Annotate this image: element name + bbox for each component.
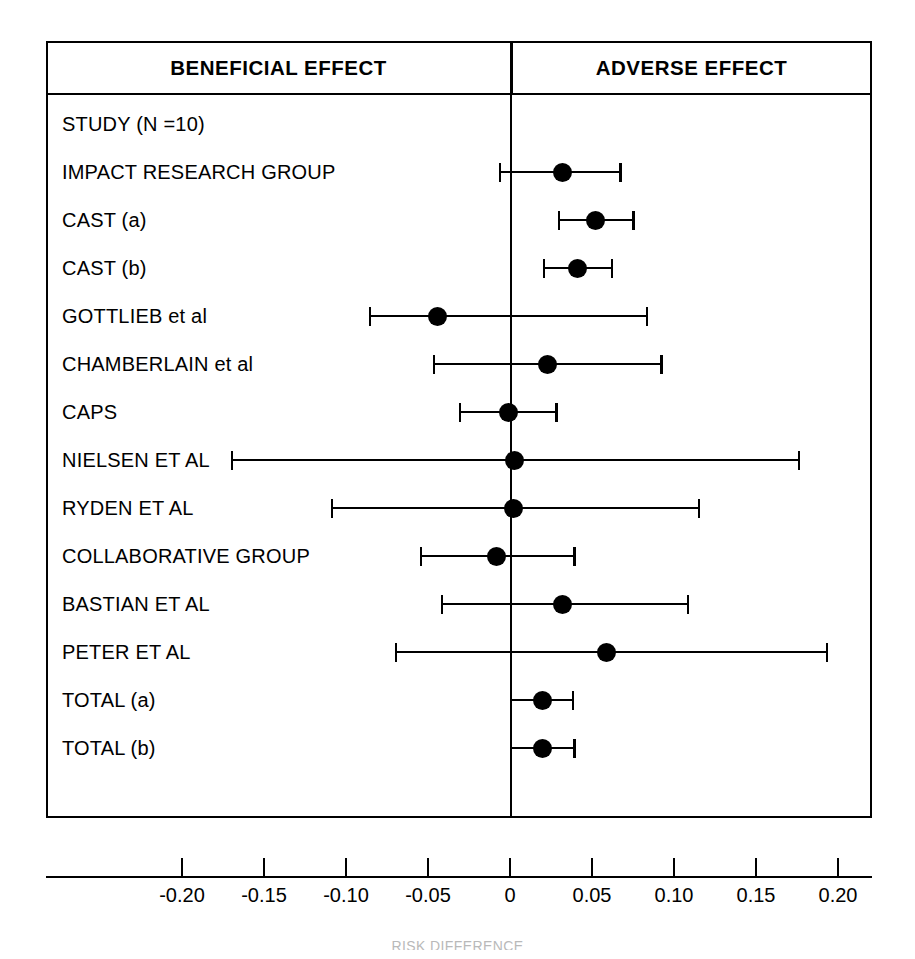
study-row: PETER ET AL	[46, 628, 872, 676]
x-axis-tick-label: 0.20	[819, 884, 858, 907]
confidence-interval-line	[369, 315, 648, 317]
study-row: TOTAL (b)	[46, 724, 872, 772]
x-axis-tick-label: 0.10	[655, 884, 694, 907]
ci-cap-upper	[632, 211, 634, 230]
x-axis-tick	[755, 858, 757, 876]
ci-cap-upper	[798, 451, 800, 470]
point-estimate-marker	[504, 499, 523, 518]
point-estimate-marker	[553, 595, 572, 614]
ci-cap-upper	[573, 739, 575, 758]
point-estimate-marker	[533, 739, 552, 758]
ci-cap-upper	[687, 595, 689, 614]
x-axis-tick-label: -0.05	[405, 884, 451, 907]
header-beneficial-effect: BENEFICIAL EFFECT	[46, 41, 511, 95]
ci-cap-upper	[826, 643, 828, 662]
study-row: BASTIAN ET AL	[46, 580, 872, 628]
study-row-label: TOTAL (b)	[62, 724, 156, 772]
x-axis-line	[46, 876, 872, 878]
ci-cap-lower	[543, 259, 545, 278]
study-row-label: GOTTLIEB et al	[62, 292, 207, 340]
ci-cap-lower	[499, 163, 501, 182]
ci-cap-lower	[441, 595, 443, 614]
ci-cap-upper	[660, 355, 662, 374]
ci-cap-upper	[572, 691, 574, 710]
header-band: BENEFICIAL EFFECT ADVERSE EFFECT	[46, 41, 872, 95]
study-row-label: CAST (a)	[62, 196, 147, 244]
ci-cap-upper	[573, 547, 575, 566]
point-estimate-marker	[428, 307, 447, 326]
point-estimate-marker	[505, 451, 524, 470]
ci-cap-lower	[459, 403, 461, 422]
study-row: IMPACT RESEARCH GROUP	[46, 148, 872, 196]
x-axis-tick-label: 0.15	[737, 884, 776, 907]
x-axis-tick-label: -0.20	[159, 884, 205, 907]
study-row-label: PETER ET AL	[62, 628, 191, 676]
x-axis-tick	[673, 858, 675, 876]
study-row-label: CHAMBERLAIN et al	[62, 340, 253, 388]
x-axis-tick	[181, 858, 183, 876]
ci-cap-lower	[395, 643, 397, 662]
study-row: TOTAL (a)	[46, 676, 872, 724]
x-axis-tick-label: 0.05	[573, 884, 612, 907]
point-estimate-marker	[533, 691, 552, 710]
x-axis-tick	[345, 858, 347, 876]
ci-cap-upper	[611, 259, 613, 278]
point-estimate-marker	[538, 355, 557, 374]
ci-cap-lower	[231, 451, 233, 470]
x-axis-tick	[509, 858, 511, 876]
point-estimate-marker	[568, 259, 587, 278]
study-row: GOTTLIEB et al	[46, 292, 872, 340]
study-row: STUDY (N =10)	[46, 100, 872, 148]
study-row: NIELSEN ET AL	[46, 436, 872, 484]
study-row-label: CAPS	[62, 388, 117, 436]
study-row-label: IMPACT RESEARCH GROUP	[62, 148, 336, 196]
study-row: RYDEN ET AL	[46, 484, 872, 532]
ci-cap-lower	[510, 691, 512, 710]
point-estimate-marker	[597, 643, 616, 662]
forest-plot-figure: BENEFICIAL EFFECT ADVERSE EFFECT STUDY (…	[0, 0, 915, 959]
point-estimate-marker	[586, 211, 605, 230]
study-row-label: NIELSEN ET AL	[62, 436, 210, 484]
study-row: CAPS	[46, 388, 872, 436]
study-row-label: RYDEN ET AL	[62, 484, 194, 532]
ci-cap-lower	[420, 547, 422, 566]
study-row-label: TOTAL (a)	[62, 676, 156, 724]
point-estimate-marker	[553, 163, 572, 182]
x-axis-tick	[591, 858, 593, 876]
study-row-label: BASTIAN ET AL	[62, 580, 210, 628]
point-estimate-marker	[487, 547, 506, 566]
ci-cap-lower	[331, 499, 333, 518]
study-row-label: CAST (b)	[62, 244, 147, 292]
x-axis-tick-label: 0	[504, 884, 515, 907]
study-row: CHAMBERLAIN et al	[46, 340, 872, 388]
ci-cap-lower	[433, 355, 435, 374]
header-adverse-effect: ADVERSE EFFECT	[511, 41, 872, 95]
study-row: CAST (b)	[46, 244, 872, 292]
study-row-label: STUDY (N =10)	[62, 100, 205, 148]
study-row: COLLABORATIVE GROUP	[46, 532, 872, 580]
ci-cap-upper	[698, 499, 700, 518]
ci-cap-lower	[558, 211, 560, 230]
x-axis-tick-label: -0.10	[323, 884, 369, 907]
ci-cap-upper	[646, 307, 648, 326]
x-axis-tick	[427, 858, 429, 876]
study-row: CAST (a)	[46, 196, 872, 244]
ci-cap-upper	[555, 403, 557, 422]
ci-cap-lower	[369, 307, 371, 326]
point-estimate-marker	[499, 403, 518, 422]
x-axis-tick	[263, 858, 265, 876]
study-row-label: COLLABORATIVE GROUP	[62, 532, 310, 580]
header-divider	[510, 41, 513, 95]
ci-cap-lower	[510, 739, 512, 758]
ci-cap-upper	[619, 163, 621, 182]
x-axis-tick-label: -0.15	[241, 884, 287, 907]
x-axis-tick	[837, 858, 839, 876]
axis-caption: RISK DIFFERENCE	[391, 938, 523, 950]
